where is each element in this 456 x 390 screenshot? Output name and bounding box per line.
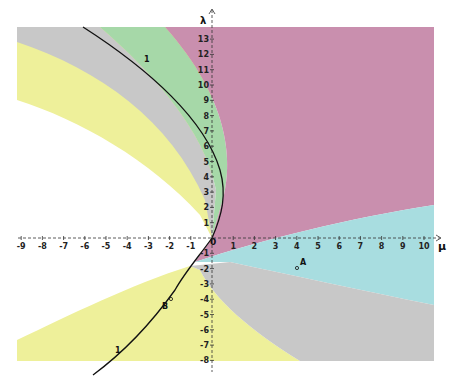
y-tick-label: 11 [198,66,210,75]
x-tick-label: 4 [294,242,300,251]
y-tick-label: 1 [203,219,209,228]
y-tick-label: 6 [203,142,209,151]
x-tick-label: -7 [59,242,68,251]
x-tick-label: -6 [80,242,89,251]
x-tick-label: -4 [123,242,132,251]
y-tick-label: 12 [198,50,209,59]
y-tick-label: -5 [200,311,209,320]
curve-label-bottom: 1 [115,346,121,355]
y-tick-label: -6 [200,326,209,335]
y-tick-label: -3 [200,280,209,289]
x-tick-label: -8 [38,242,47,251]
x-tick-label: 5 [315,242,321,251]
x-tick-label: -2 [165,242,174,251]
x-tick-label: 6 [336,242,342,251]
origin-label: 0 [210,237,216,247]
y-tick-label: -4 [200,295,209,304]
point-b-label: B [162,302,168,311]
x-tick-label: -3 [144,242,153,251]
x-tick-label: -9 [17,242,26,251]
y-tick-label: 9 [203,96,209,105]
x-tick-label: 2 [252,242,258,251]
x-tick-label: 10 [418,242,430,251]
y-tick-label: 8 [203,112,209,121]
x-tick-label: 9 [400,242,406,251]
y-tick-label: 3 [203,188,209,197]
x-tick-label: 7 [358,242,364,251]
y-tick-label: -2 [200,265,209,274]
x-tick-label: 3 [273,242,279,251]
point-a-label: A [300,258,307,267]
y-axis-label: λ [200,15,207,26]
y-tick-label: -7 [200,341,209,350]
curve-label-top: 1 [144,55,150,64]
y-tick-label: 2 [203,203,209,212]
regions [17,27,434,361]
x-tick-label: 8 [379,242,385,251]
x-tick-label: -5 [102,242,111,251]
y-tick-label: -1 [200,249,209,258]
x-axis-label: μ [438,240,446,253]
y-tick-label: 4 [203,173,209,182]
stability-diagram: -9-8-7-6-5-4-3-2-112345678910 1312111098… [0,0,456,390]
x-tick-label: -1 [186,242,195,251]
y-tick-label: 5 [203,158,209,167]
y-tick-label: 7 [203,127,209,136]
y-tick-label: -8 [200,356,209,365]
y-tick-label: 13 [198,35,209,44]
x-tick-label: 1 [230,242,236,251]
y-tick-label: 10 [198,81,210,90]
